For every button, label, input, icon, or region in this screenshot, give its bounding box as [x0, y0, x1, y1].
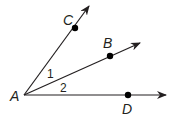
- label-b: B: [103, 35, 112, 51]
- ray-ac: [24, 6, 89, 95]
- angle-diagram: A C B D 1 2: [0, 0, 172, 120]
- label-a: A: [9, 88, 19, 104]
- angle-1-label: 1: [47, 67, 54, 81]
- point-b: [107, 53, 113, 59]
- label-d: D: [122, 101, 132, 117]
- angle-2-label: 2: [60, 81, 67, 95]
- ray-ab: [24, 43, 140, 95]
- label-c: C: [63, 12, 74, 28]
- point-d: [125, 92, 131, 98]
